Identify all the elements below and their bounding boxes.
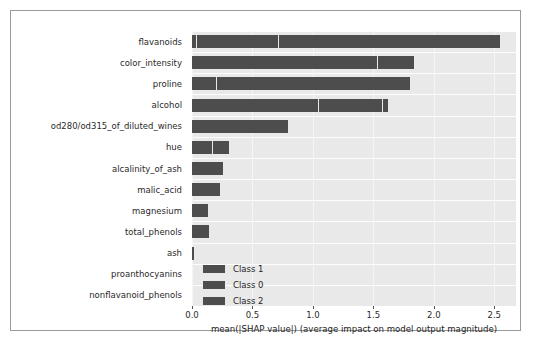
horizontal-gridline	[192, 31, 516, 32]
y-axis-tick-label: ash	[167, 248, 182, 258]
bar-segment[interactable]	[217, 77, 409, 90]
legend-item[interactable]: Class 1	[203, 263, 299, 276]
legend-item[interactable]: Class 0	[203, 279, 299, 292]
bar-segment[interactable]	[378, 56, 414, 69]
bar-row[interactable]	[192, 225, 516, 238]
legend-swatch	[203, 297, 225, 305]
y-axis-tick-label: alcohol	[152, 100, 182, 110]
bar-row[interactable]	[192, 162, 516, 175]
horizontal-gridline	[192, 243, 516, 244]
legend-label: Class 1	[233, 263, 263, 275]
x-axis-title: mean(|SHAP value|) (average impact on mo…	[192, 324, 516, 334]
y-axis-labels: flavanoidscolor_intensityprolinealcoholo…	[25, 31, 188, 306]
horizontal-gridline	[192, 221, 516, 222]
y-axis-tick-label: flavanoids	[138, 37, 182, 47]
horizontal-gridline	[192, 116, 516, 117]
y-axis-tick-label: total_phenols	[125, 227, 182, 237]
bar-segment[interactable]	[213, 141, 230, 154]
x-axis-tick-mark	[434, 306, 435, 309]
y-axis-tick-label: alcalinity_of_ash	[112, 164, 182, 174]
x-axis-tick-mark	[373, 306, 374, 309]
horizontal-gridline	[192, 73, 516, 74]
bar-row[interactable]	[192, 141, 516, 154]
x-axis-tick-label: 0.5	[246, 310, 260, 320]
horizontal-gridline	[192, 52, 516, 53]
bar-segment[interactable]	[319, 99, 383, 112]
horizontal-gridline	[192, 137, 516, 138]
bar-row[interactable]	[192, 56, 516, 69]
bar-row[interactable]	[192, 77, 516, 90]
x-axis-tick-label: 2.0	[427, 310, 441, 320]
bar-segment[interactable]	[192, 247, 194, 260]
bar-segment[interactable]	[192, 162, 223, 175]
bar-row[interactable]	[192, 99, 516, 112]
legend-label: Class 2	[233, 295, 263, 307]
bar-segment[interactable]	[192, 77, 217, 90]
x-axis-tick-label: 1.5	[367, 310, 381, 320]
bar-segment[interactable]	[192, 183, 220, 196]
y-axis-tick-label: nonflavanoid_phenols	[89, 290, 182, 300]
legend-swatch	[203, 281, 225, 289]
figure-frame: flavanoidscolor_intensityprolinealcoholo…	[10, 10, 521, 331]
horizontal-gridline	[192, 94, 516, 95]
bar-segment[interactable]	[192, 225, 209, 238]
x-axis-tick-mark	[192, 306, 193, 309]
x-axis-tick-mark	[313, 306, 314, 309]
x-axis-tick-label: 0.0	[185, 310, 199, 320]
bar-segment[interactable]	[383, 99, 388, 112]
y-axis-tick-label: magnesium	[132, 206, 182, 216]
x-axis-tick-mark	[494, 306, 495, 309]
bar-row[interactable]	[192, 183, 516, 196]
x-axis-tick-label: 2.5	[487, 310, 501, 320]
legend-item[interactable]: Class 2	[203, 295, 299, 308]
y-axis-tick-label: hue	[166, 142, 182, 152]
bar-segment[interactable]	[192, 99, 319, 112]
bar-segment[interactable]	[279, 35, 500, 48]
x-axis-tick-label: 1.0	[306, 310, 320, 320]
bar-segment[interactable]	[192, 120, 288, 133]
y-axis-tick-label: proanthocyanins	[111, 269, 182, 279]
bar-row[interactable]	[192, 247, 516, 260]
bar-segment[interactable]	[192, 56, 378, 69]
y-axis-tick-label: malic_acid	[137, 185, 182, 195]
bar-row[interactable]	[192, 204, 516, 217]
legend-label: Class 0	[233, 279, 263, 291]
y-axis-tick-label: color_intensity	[120, 58, 182, 68]
y-axis-tick-label: proline	[153, 79, 182, 89]
horizontal-gridline	[192, 200, 516, 201]
bar-segment[interactable]	[192, 141, 213, 154]
chart-legend: Class 1Class 0Class 2	[203, 263, 299, 311]
shap-summary-figure: flavanoidscolor_intensityprolinealcoholo…	[0, 0, 533, 343]
bar-segment[interactable]	[192, 204, 208, 217]
horizontal-gridline	[192, 179, 516, 180]
horizontal-gridline	[192, 158, 516, 159]
bar-segment[interactable]	[197, 35, 279, 48]
bar-row[interactable]	[192, 120, 516, 133]
y-axis-tick-label: od280/od315_of_diluted_wines	[51, 121, 182, 131]
legend-swatch	[203, 265, 225, 273]
bar-row[interactable]	[192, 35, 516, 48]
